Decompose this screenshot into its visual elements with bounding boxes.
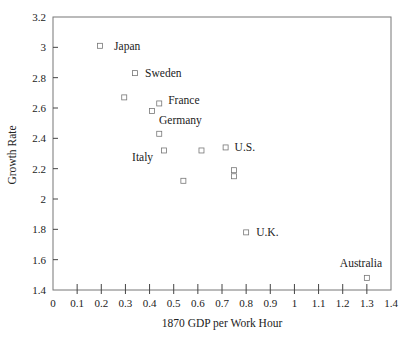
x-axis-ticks: 00.10.20.30.40.50.60.70.80.911.11.21.31.… [50, 284, 398, 309]
data-point-marker [181, 178, 186, 183]
data-point-label: Japan [114, 40, 140, 53]
x-tick-label: 1.4 [384, 297, 398, 309]
x-tick-label: 0.2 [94, 297, 108, 309]
x-tick-label: 0.1 [70, 297, 84, 309]
y-tick-label: 1.6 [32, 254, 46, 266]
data-point-marker [232, 168, 237, 173]
data-point-label: France [168, 94, 199, 106]
data-point-label: Italy [132, 151, 153, 164]
x-tick-label: 1.1 [312, 297, 326, 309]
data-point-marker [162, 148, 167, 153]
x-tick-label: 0.4 [143, 297, 157, 309]
data-point-marker [364, 275, 369, 280]
y-axis-ticks: 1.41.61.822.22.42.62.833.2 [32, 11, 58, 296]
plot-border [53, 17, 391, 290]
x-tick-label: 0.3 [119, 297, 133, 309]
y-tick-label: 2.8 [32, 72, 46, 84]
data-point-marker [232, 174, 237, 179]
data-points: JapanSwedenFranceGermanyItalyU.S.U.K.Aus… [98, 40, 382, 281]
y-axis-label: Growth Rate [6, 125, 18, 184]
data-point-marker [133, 71, 138, 76]
y-tick-label: 3 [41, 41, 47, 53]
data-point-marker [157, 101, 162, 106]
data-point-label: U.K. [256, 226, 278, 238]
data-point-label: Australia [340, 257, 382, 269]
plot-frame [53, 17, 391, 290]
x-tick-label: 0 [50, 297, 56, 309]
data-point-marker [98, 43, 103, 48]
y-tick-label: 1.8 [32, 223, 46, 235]
data-point-marker [122, 95, 127, 100]
y-tick-label: 1.4 [32, 284, 46, 296]
data-point-label: U.S. [235, 141, 256, 153]
x-tick-label: 0.8 [239, 297, 253, 309]
scatter-chart: 00.10.20.30.40.50.60.70.80.911.11.21.31.… [0, 0, 413, 340]
x-tick-label: 1.2 [336, 297, 350, 309]
x-tick-label: 0.9 [263, 297, 277, 309]
y-tick-label: 2.4 [32, 132, 46, 144]
x-tick-label: 1.3 [360, 297, 374, 309]
x-axis-label: 1870 GDP per Work Hour [162, 317, 283, 330]
y-tick-label: 2 [41, 193, 47, 205]
data-point-marker [149, 109, 154, 114]
y-tick-label: 2.6 [32, 102, 46, 114]
data-point-label: Sweden [145, 67, 182, 79]
data-point-marker [199, 148, 204, 153]
y-tick-label: 2.2 [32, 163, 46, 175]
data-point-marker [157, 131, 162, 136]
data-point-marker [244, 230, 249, 235]
x-tick-label: 1 [292, 297, 298, 309]
y-tick-label: 3.2 [32, 11, 46, 23]
x-tick-label: 0.6 [191, 297, 205, 309]
data-point-marker [223, 145, 228, 150]
x-tick-label: 0.5 [167, 297, 181, 309]
x-tick-label: 0.7 [215, 297, 229, 309]
data-point-label: Germany [159, 114, 202, 127]
